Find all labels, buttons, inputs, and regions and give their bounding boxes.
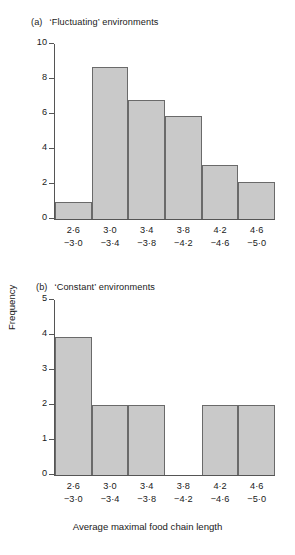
x-tick-label-upper: 3·8 xyxy=(165,480,202,493)
y-tick-b-0: 0 xyxy=(49,474,54,475)
x-tick-label-lower: −3·8 xyxy=(128,493,165,506)
y-tick-label-b-3: 3 xyxy=(42,363,47,374)
bar xyxy=(128,405,165,475)
x-tick-label-upper: 3·8 xyxy=(165,224,202,237)
x-tick-label-lower: −4·6 xyxy=(202,493,239,506)
bar-cell xyxy=(165,300,202,475)
x-tick-label: 2·6−3·0 xyxy=(55,224,92,249)
x-tick-label: 3·4−3·8 xyxy=(128,224,165,249)
y-axis-title: Frequency xyxy=(6,316,17,330)
y-tick-label-a-8: 8 xyxy=(42,72,47,83)
bar xyxy=(238,405,275,475)
x-tick-label-lower: −5·0 xyxy=(238,237,275,250)
bar-cell xyxy=(238,300,275,475)
bar-cell xyxy=(128,44,165,219)
y-tick-a-0: 0 xyxy=(49,218,54,219)
bar-cell xyxy=(238,44,275,219)
panel-b-title: (b)‘Constant’ environments xyxy=(36,282,155,292)
y-tick-label-a-4: 4 xyxy=(42,142,47,153)
x-tick-label: 3·0−3·4 xyxy=(92,224,129,249)
bar-cell xyxy=(202,44,239,219)
x-tick-label-upper: 3·0 xyxy=(92,480,129,493)
x-tick-label-upper: 4·6 xyxy=(238,224,275,237)
y-tick-a-2: 2 xyxy=(49,183,54,184)
y-tick-b-3: 3 xyxy=(49,369,54,370)
x-tick-label-upper: 2·6 xyxy=(55,224,92,237)
bar xyxy=(238,182,275,219)
x-tick-label: 4·2−4·6 xyxy=(202,480,239,505)
bar-cell xyxy=(92,44,129,219)
x-tick-label-lower: −3·4 xyxy=(92,493,129,506)
y-tick-b-4: 4 xyxy=(49,334,54,335)
panel-a-title: (a)‘Fluctuating’ environments xyxy=(31,17,159,27)
figure-food-chain-length-histograms: (a)‘Fluctuating’ environments 0246810 2·… xyxy=(0,0,295,555)
x-tick-label: 4·6−5·0 xyxy=(238,480,275,505)
x-tick-label-lower: −3·0 xyxy=(55,493,92,506)
x-tick-label-lower: −5·0 xyxy=(238,493,275,506)
panel-a-tag: (a) xyxy=(31,17,43,27)
y-tick-label-b-1: 1 xyxy=(42,433,47,444)
x-tick-label-upper: 3·4 xyxy=(128,480,165,493)
y-tick-b-1: 1 xyxy=(49,439,54,440)
bar-cell xyxy=(202,300,239,475)
bar-cell xyxy=(92,300,129,475)
x-tick-label-upper: 4·2 xyxy=(202,224,239,237)
y-tick-label-b-4: 4 xyxy=(42,328,47,339)
bar-cell xyxy=(128,300,165,475)
x-tick-label-lower: −3·0 xyxy=(55,237,92,250)
x-tick-label-group-a: 2·6−3·03·0−3·43·4−3·83·8−4·24·2−4·64·6−5… xyxy=(55,219,275,249)
y-tick-a-10: 10 xyxy=(49,43,54,44)
x-axis-title: Average maximal food chain length xyxy=(0,521,295,532)
panel-a-title-text: ‘Fluctuating’ environments xyxy=(50,17,159,27)
x-tick-label-lower: −4·2 xyxy=(165,493,202,506)
bar xyxy=(165,116,202,219)
plot-area-a: 0246810 2·6−3·03·0−3·43·4−3·83·8−4·24·2−… xyxy=(55,44,275,219)
x-tick-label: 4·6−5·0 xyxy=(238,224,275,249)
bar xyxy=(202,405,239,475)
panel-b-tag: (b) xyxy=(36,282,48,292)
x-tick-label-lower: −3·4 xyxy=(92,237,129,250)
bar-cell xyxy=(55,300,92,475)
bar xyxy=(128,100,165,219)
bar-group-a xyxy=(55,44,275,219)
plot-area-b: 012345 2·6−3·03·0−3·43·4−3·83·8−4·24·2−4… xyxy=(55,300,275,475)
bar xyxy=(92,405,129,475)
y-tick-a-8: 8 xyxy=(49,78,54,79)
x-tick-label-upper: 3·4 xyxy=(128,224,165,237)
x-tick-label: 3·0−3·4 xyxy=(92,480,129,505)
x-tick-label: 4·2−4·6 xyxy=(202,224,239,249)
x-tick-label-upper: 4·2 xyxy=(202,480,239,493)
x-tick-label: 2·6−3·0 xyxy=(55,480,92,505)
bar-cell xyxy=(165,44,202,219)
bar xyxy=(55,202,92,220)
x-tick-label: 3·4−3·8 xyxy=(128,480,165,505)
x-tick-label: 3·8−4·2 xyxy=(165,480,202,505)
y-tick-label-b-5: 5 xyxy=(42,293,47,304)
y-tick-a-4: 4 xyxy=(49,148,54,149)
x-tick-label-upper: 2·6 xyxy=(55,480,92,493)
y-tick-b-5: 5 xyxy=(49,299,54,300)
y-tick-label-a-2: 2 xyxy=(42,177,47,188)
x-tick-label-lower: −3·8 xyxy=(128,237,165,250)
bar xyxy=(55,337,92,475)
bar xyxy=(92,67,129,219)
y-tick-label-b-2: 2 xyxy=(42,398,47,409)
panel-a-fluctuating: (a)‘Fluctuating’ environments 0246810 2·… xyxy=(0,0,295,278)
panel-b-title-text: ‘Constant’ environments xyxy=(55,282,156,292)
y-tick-b-2: 2 xyxy=(49,404,54,405)
y-tick-label-b-0: 0 xyxy=(42,468,47,479)
y-tick-label-a-10: 10 xyxy=(37,37,47,48)
y-tick-a-6: 6 xyxy=(49,113,54,114)
x-tick-label-upper: 3·0 xyxy=(92,224,129,237)
panel-b-constant: (b)‘Constant’ environments 012345 2·6−3·… xyxy=(0,278,295,555)
bar xyxy=(202,165,239,219)
x-tick-label-lower: −4·6 xyxy=(202,237,239,250)
y-tick-label-a-0: 0 xyxy=(42,212,47,223)
bar-group-b xyxy=(55,300,275,475)
x-tick-label-lower: −4·2 xyxy=(165,237,202,250)
y-tick-label-a-6: 6 xyxy=(42,107,47,118)
x-tick-label-group-b: 2·6−3·03·0−3·43·4−3·83·8−4·24·2−4·64·6−5… xyxy=(55,475,275,505)
x-tick-label: 3·8−4·2 xyxy=(165,224,202,249)
x-tick-label-upper: 4·6 xyxy=(238,480,275,493)
bar-cell xyxy=(55,44,92,219)
